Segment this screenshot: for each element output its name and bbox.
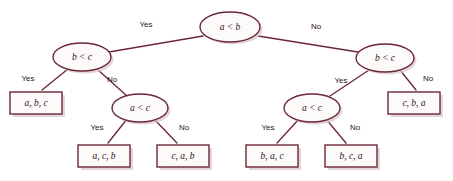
node-left-inner-label: a < c (130, 103, 151, 113)
node-right[interactable]: b < c (356, 44, 414, 72)
leaf-label: c, b, a (402, 98, 425, 108)
edge-left-inner-to-leaf-acb (108, 119, 127, 143)
edge-root-to-right (258, 36, 358, 52)
node-root-label: a < b (220, 22, 241, 32)
edge-label-left-yes: Yes (21, 74, 34, 83)
leaf-node[interactable]: a, c, b (78, 145, 130, 167)
edge-label-right-inner-no: No (350, 123, 361, 132)
node-left[interactable]: b < c (53, 43, 111, 71)
node-right-label: b < c (375, 53, 396, 63)
leaf-label: a, b, c (24, 98, 48, 108)
leaf-label: c, a, b (171, 151, 194, 161)
edge-label-right-no: No (423, 74, 434, 83)
edge-label-left-inner-no: No (179, 123, 190, 132)
leaf-label: b, c, a (339, 151, 362, 161)
edge-root-to-left (109, 36, 203, 52)
edge-label-left-no: No (107, 75, 118, 84)
node-left-inner[interactable]: a < c (112, 94, 168, 122)
edge-right-to-leaf-cba (400, 70, 416, 90)
leaf-label: a, c, b (92, 151, 115, 161)
edge-label-right-inner-yes: Yes (261, 123, 274, 132)
leaf-label: b, a, c (260, 151, 284, 161)
edge-left-inner-to-leaf-cab (154, 119, 177, 143)
edge-label-left-inner-yes: Yes (90, 123, 103, 132)
leaves-group: a, b, c a, c, b c, a, b b, a, c b, c, a (10, 92, 440, 167)
leaf-node[interactable]: c, a, b (157, 145, 209, 167)
edge-label-right-yes: Yes (334, 76, 347, 85)
node-right-inner[interactable]: a < c (284, 94, 340, 122)
edge-right-inner-to-leaf-bac (277, 119, 299, 143)
leaf-node[interactable]: b, c, a (325, 145, 377, 167)
decision-tree-diagram: a < b b < c b < c a < c a < c (0, 0, 453, 181)
edge-right-inner-to-leaf-bca (326, 119, 346, 143)
edge-label-root-yes: Yes (139, 20, 152, 29)
node-right-inner-label: a < c (302, 103, 323, 113)
node-root[interactable]: a < b (200, 12, 260, 42)
edge-left-to-leaf-abc (42, 69, 68, 90)
node-left-label: b < c (72, 52, 93, 62)
edge-label-root-no: No (311, 22, 322, 31)
leaf-node[interactable]: c, b, a (388, 92, 440, 114)
leaf-node[interactable]: a, b, c (10, 92, 62, 114)
tree-canvas: a < b b < c b < c a < c a < c (0, 0, 453, 181)
leaf-node[interactable]: b, a, c (246, 145, 298, 167)
